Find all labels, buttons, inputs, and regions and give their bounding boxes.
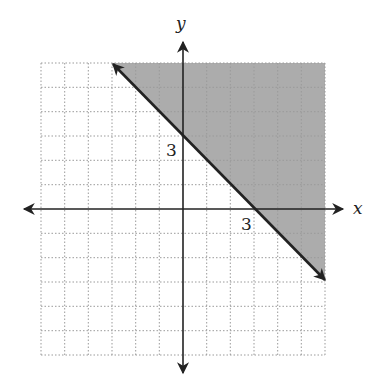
x-axis-label: x [353,198,363,218]
inequality-graph: y x 3 3 [0,0,379,382]
y-axis-label: y [175,13,186,33]
x-intercept-label: 3 [241,214,252,234]
y-intercept-label: 3 [166,140,177,160]
